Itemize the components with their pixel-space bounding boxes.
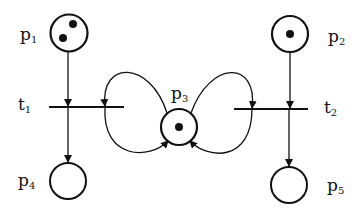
place-p4	[50, 163, 86, 199]
place-p5	[271, 167, 307, 203]
token	[286, 30, 294, 38]
place-p2	[272, 16, 308, 52]
label-p5: p5	[327, 175, 344, 196]
label-p2: p2	[328, 26, 345, 47]
arc-t1-p3	[105, 107, 168, 153]
arc-t2-p3	[190, 109, 252, 153]
place-p1	[51, 15, 88, 52]
label-t2: t2	[324, 97, 337, 118]
label-p3: p3	[171, 83, 188, 104]
place-p3	[161, 109, 197, 145]
arc-p3-t2	[191, 73, 253, 113]
label-t1: t1	[18, 94, 31, 115]
label-p1: p1	[20, 24, 37, 45]
token	[59, 34, 67, 42]
label-p4: p4	[18, 170, 35, 191]
token	[175, 123, 183, 131]
token	[69, 20, 77, 28]
petri-net-diagram: p1 p2 p3 p4 p5 t1 t2	[0, 0, 359, 212]
